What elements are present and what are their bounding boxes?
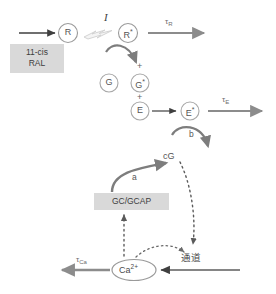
calcium-charge-superscript: 2+ [131,263,138,270]
tau-e-label: τE [222,96,229,104]
tau-ca-label: τCa [76,256,87,264]
gc-gcap-box: GC/GCAP [94,193,169,210]
channel-label: 通道 [181,253,201,263]
phototransduction-diagram: 11-cis RAL R I R* τR G G* + + E E* τE b … [0,0,276,294]
retinal-line2: RAL [15,58,59,69]
gc-gcap-label: GC/GCAP [112,196,151,206]
plus-below-g-star: + [137,93,142,102]
reaction-a-label: a [132,173,137,182]
node-g-label: G [99,78,119,87]
node-cg-label: cG [163,152,175,161]
node-r-star-label: R* [118,28,138,40]
g-star-superscript: * [142,78,145,85]
tau-r-label: τR [165,18,173,26]
lightning-flash-icon [84,30,112,39]
tau-e-subscript: E [225,99,229,105]
node-calcium-label: Ca2+ [119,264,138,275]
r-star-superscript: * [130,28,133,35]
arrow-a [112,163,166,192]
dotted-calcium-to-channel [136,246,184,257]
e-star-superscript: * [192,106,195,113]
tau-ca-subscript: Ca [79,259,87,265]
dotted-cg-to-channel [180,162,194,244]
retinal-line1: 11-cis [15,47,59,58]
node-g-star-label: G* [130,78,150,90]
retinal-box: 11-cis RAL [10,44,64,73]
plus-above-g-star: + [137,62,142,71]
node-e-star-label: E* [180,106,200,118]
tau-r-subscript: R [168,21,172,27]
reaction-b-label: b [189,130,194,139]
node-r-label: R [58,28,78,37]
arrow-r-star-to-g-star [106,45,136,62]
light-intensity-label: I [104,12,108,23]
node-e-label: E [130,106,150,115]
